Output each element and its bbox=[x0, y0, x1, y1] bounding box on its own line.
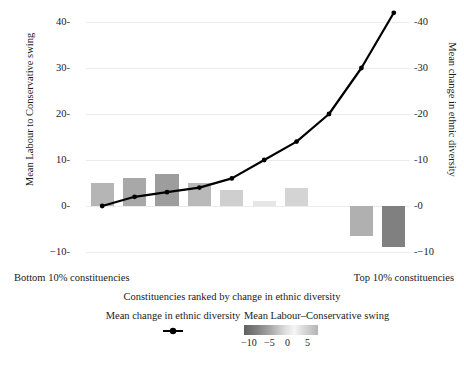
line-point-3 bbox=[165, 190, 170, 195]
left-axis-ticks: 40- 30- 20- 10- 0- −10- bbox=[20, 18, 70, 250]
chart-legend: Mean change in ethnic diversity Mean Lab… bbox=[0, 310, 464, 362]
colorbar-gradient bbox=[244, 325, 318, 335]
right-tick-40: -40 bbox=[414, 17, 428, 28]
left-tick-30: 30- bbox=[56, 63, 70, 74]
line-point-5 bbox=[229, 176, 234, 181]
left-tick-20: 20- bbox=[56, 109, 70, 120]
line-point-9 bbox=[359, 66, 364, 71]
x-endpoint-low: Bottom 10% constituencies bbox=[14, 272, 130, 283]
gridline-neg10 bbox=[86, 252, 410, 253]
x-endpoint-high: Top 10% constituencies bbox=[354, 272, 454, 283]
line-point-10 bbox=[391, 10, 396, 15]
line-point-4 bbox=[197, 185, 202, 190]
colorbar-ticks: −10 −5 0 5 bbox=[244, 337, 336, 351]
left-tick-10: 10- bbox=[56, 155, 70, 166]
right-tick-20: -20 bbox=[414, 109, 428, 120]
legend-line-label: Mean change in ethnic diversity bbox=[88, 310, 258, 321]
colorbar-tick-neg10: −10 bbox=[241, 337, 257, 348]
right-tick-0: -0 bbox=[414, 201, 423, 212]
legend-line-entry: Mean change in ethnic diversity bbox=[88, 310, 258, 337]
colorbar-tick-neg5: −5 bbox=[264, 337, 275, 348]
line-series bbox=[86, 18, 410, 250]
legend-colorbar-label: Mean Labour–Conservative swing bbox=[244, 310, 444, 321]
left-tick-0: 0- bbox=[61, 201, 70, 212]
chart-figure: Mean Labour to Conservative swing Mean c… bbox=[0, 0, 464, 365]
x-axis-title: Constituencies ranked by change in ethni… bbox=[0, 291, 464, 302]
line-point-8 bbox=[327, 112, 332, 117]
right-tick-10: -10 bbox=[414, 155, 428, 166]
line-point-7 bbox=[294, 139, 299, 144]
plot-area bbox=[86, 18, 410, 250]
line-markers bbox=[100, 10, 396, 208]
right-tick-neg10: -−10 bbox=[414, 247, 434, 258]
legend-colorbar-entry: Mean Labour–Conservative swing −10 −5 0 … bbox=[244, 310, 444, 351]
legend-line-marker bbox=[88, 325, 258, 337]
left-tick-40: 40- bbox=[56, 17, 70, 28]
line-path bbox=[102, 13, 394, 206]
line-point-1 bbox=[100, 204, 105, 209]
line-point-6 bbox=[262, 158, 267, 163]
line-point-2 bbox=[132, 194, 137, 199]
colorbar-tick-0: 0 bbox=[285, 337, 290, 348]
left-tick-neg10: −10- bbox=[50, 247, 70, 258]
line-point-marker-icon bbox=[162, 326, 184, 336]
right-tick-30: -30 bbox=[414, 63, 428, 74]
right-axis-ticks: -40 -30 -20 -10 -0 -−10 bbox=[414, 18, 454, 250]
colorbar-tick-5: 5 bbox=[305, 337, 310, 348]
